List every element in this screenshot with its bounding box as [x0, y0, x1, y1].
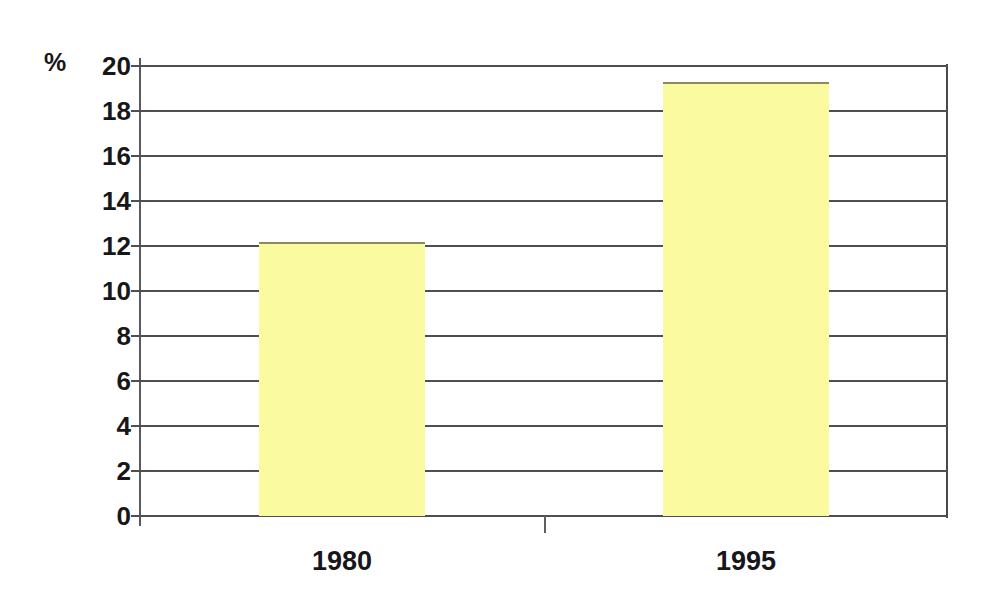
y-axis-tick-label: 0 [79, 501, 131, 532]
x-axis-label-1995: 1995 [716, 546, 776, 577]
y-axis-tick-label: 4 [79, 411, 131, 442]
y-axis-tick-mark [131, 200, 141, 202]
bar-1995 [663, 82, 829, 516]
y-axis-tick-mark [131, 380, 141, 382]
plot-area [140, 66, 948, 516]
x-axis-label-1980: 1980 [312, 546, 372, 577]
y-axis-tick-label: 12 [79, 231, 131, 262]
y-axis-tick-mark [131, 245, 141, 247]
y-axis-tick-labels: 02468101214161820 [75, 0, 131, 615]
y-axis-tick-mark [131, 155, 141, 157]
y-axis-tick-mark [131, 110, 141, 112]
x-axis-category-tick [544, 516, 546, 533]
bar-top-edge [663, 82, 829, 84]
y-axis-tick-label: 18 [79, 96, 131, 127]
y-axis-tick-mark [131, 470, 141, 472]
y-axis-tick-mark [131, 65, 141, 67]
y-axis-tick-label: 8 [79, 321, 131, 352]
y-axis-tick-mark [131, 515, 141, 517]
bar-1980 [259, 242, 425, 517]
y-axis-tick-label: 2 [79, 456, 131, 487]
y-axis-unit-label: % [44, 48, 66, 77]
y-axis-tick-label: 20 [79, 51, 131, 82]
y-axis-tick-mark [131, 335, 141, 337]
y-axis-tick-label: 16 [79, 141, 131, 172]
y-axis-tick-mark [131, 290, 141, 292]
bar-chart: % 02468101214161820 19801995 [0, 0, 1003, 615]
y-axis-tick-label: 6 [79, 366, 131, 397]
y-axis-tick-label: 14 [79, 186, 131, 217]
bar-top-edge [259, 242, 425, 244]
y-axis-tick-label: 10 [79, 276, 131, 307]
y-axis-tick-mark [131, 425, 141, 427]
gridline [140, 65, 948, 67]
